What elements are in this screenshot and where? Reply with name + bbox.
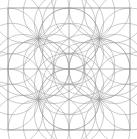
rosette-pattern-svg	[0, 0, 137, 139]
figure-root	[0, 0, 137, 139]
canvas-background	[0, 0, 137, 139]
